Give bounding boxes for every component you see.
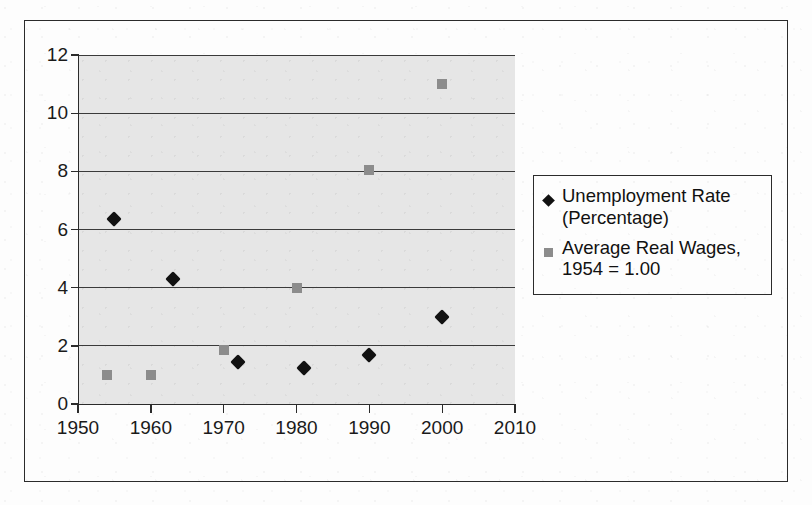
- x-axis-tick-label: 2000: [421, 417, 463, 438]
- y-axis-tick: [71, 287, 79, 288]
- y-axis-tick: [71, 113, 79, 114]
- x-axis-tick: [296, 404, 297, 413]
- y-axis-tick: [71, 229, 79, 230]
- gridline: [78, 171, 515, 172]
- data-point-average-real-wages: [146, 370, 156, 380]
- legend-entry-average-real-wages: Average Real Wages, 1954 = 1.00: [544, 237, 763, 281]
- x-axis-tick-label: 1960: [130, 417, 172, 438]
- gridline: [78, 345, 515, 346]
- y-axis-tick-label: 2: [24, 336, 68, 355]
- data-point-average-real-wages: [364, 165, 374, 175]
- y-axis-tick: [71, 171, 79, 172]
- x-axis-tick-label: 1980: [275, 417, 317, 438]
- square-marker-icon: [544, 237, 562, 261]
- legend-entry-unemployment-rate: Unemployment Rate (Percentage): [544, 185, 763, 229]
- legend-label: Average Real Wages, 1954 = 1.00: [562, 237, 741, 281]
- gridline: [78, 113, 515, 114]
- y-axis-tick-label: 12: [24, 45, 68, 64]
- x-axis-tick-label: 1950: [57, 417, 99, 438]
- x-axis-tick-label: 1990: [348, 417, 390, 438]
- x-axis-tick: [150, 404, 151, 413]
- data-point-average-real-wages: [437, 79, 447, 89]
- x-axis-tick: [369, 404, 370, 413]
- gridline: [78, 229, 515, 230]
- chart-legend: Unemployment Rate (Percentage) Average R…: [533, 175, 772, 295]
- x-axis-tick: [442, 404, 443, 413]
- legend-label: Unemployment Rate (Percentage): [562, 185, 731, 229]
- data-point-average-real-wages: [219, 345, 229, 355]
- x-axis-tick-label: 1970: [203, 417, 245, 438]
- y-axis-tick-label: 0: [24, 394, 68, 413]
- data-point-average-real-wages: [102, 370, 112, 380]
- x-axis-tick: [223, 404, 224, 413]
- y-axis-tick: [71, 345, 79, 346]
- x-axis-tick-label: 2010: [494, 417, 536, 438]
- gridline: [78, 55, 515, 56]
- data-point-average-real-wages: [292, 283, 302, 293]
- diamond-marker-icon: [544, 185, 562, 209]
- x-axis-tick: [514, 404, 515, 413]
- y-axis-tick-label: 10: [24, 103, 68, 122]
- y-axis-tick: [71, 54, 79, 55]
- y-axis-tick-label: 4: [24, 278, 68, 297]
- y-axis-tick-label: 8: [24, 161, 68, 180]
- x-axis-tick: [77, 404, 78, 413]
- y-axis-tick-label: 6: [24, 220, 68, 239]
